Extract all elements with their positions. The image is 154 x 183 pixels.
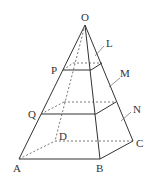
- section-upper-right: [91, 63, 102, 70]
- label-B: B: [96, 163, 103, 174]
- leader-M: [109, 78, 120, 87]
- edge-AD-hidden: [19, 141, 55, 159]
- label-P: P: [51, 65, 57, 76]
- leader-L: [95, 46, 104, 56]
- label-Q: Q: [28, 109, 36, 120]
- label-C: C: [136, 138, 143, 149]
- label-O: O: [81, 12, 89, 23]
- label-N: N: [133, 104, 141, 115]
- pyramid-diagram: O L P M Q N D C A B: [0, 0, 154, 183]
- edge-OD-hidden: [55, 25, 85, 141]
- label-M: M: [120, 68, 130, 79]
- edge-OA: [19, 25, 85, 159]
- label-A: A: [13, 163, 21, 174]
- label-D: D: [59, 131, 67, 142]
- section-lower-right: [96, 102, 116, 114]
- label-L: L: [106, 38, 113, 49]
- edge-BC: [100, 141, 133, 159]
- edge-OB: [85, 25, 100, 159]
- pyramid-figure: [0, 0, 154, 183]
